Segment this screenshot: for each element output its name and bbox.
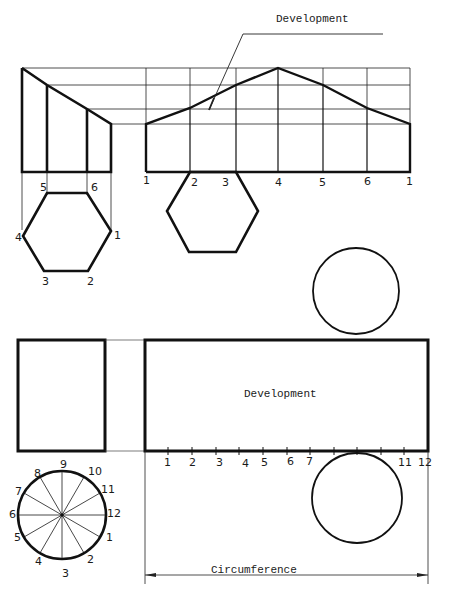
circle-label-8: 8 [34, 467, 41, 480]
cyl-dev-label-7: 7 [306, 455, 313, 468]
cyl-dev-label-6: 6 [287, 455, 294, 468]
circle-label-2: 2 [87, 553, 94, 566]
cylinder-elevation [18, 340, 105, 451]
dev-label-1b: 1 [406, 175, 413, 188]
circle-label-11: 11 [101, 483, 115, 496]
plan-circle-center [60, 513, 64, 517]
bottom-cap-circle [312, 453, 402, 543]
circle-label-3: 3 [62, 567, 69, 580]
top-cap-circle [313, 248, 399, 334]
circumference-label: Circumference [211, 564, 297, 576]
cyl-dev-label-5: 5 [261, 456, 268, 469]
circle-label-1: 1 [106, 531, 113, 544]
hex-label-6: 6 [91, 181, 98, 194]
plan-hexagon [23, 193, 111, 271]
circle-label-7: 7 [15, 485, 22, 498]
hex-label-3: 3 [42, 275, 49, 288]
circle-label-4: 4 [35, 555, 42, 568]
development-leader-top [209, 34, 383, 110]
prism-development-folds [190, 68, 367, 172]
dev-label-5: 5 [319, 176, 326, 189]
circle-label-5: 5 [14, 531, 21, 544]
dev-label-2: 2 [191, 176, 198, 189]
prism-elevation [22, 68, 111, 172]
circle-label-9: 9 [60, 458, 67, 471]
development-label-bottom: Development [244, 388, 317, 400]
dev-label-6: 6 [364, 175, 371, 188]
hex-label-1: 1 [114, 229, 121, 242]
dev-label-1a: 1 [143, 174, 150, 187]
upper-projection-lines [22, 68, 410, 230]
hex-label-5: 5 [40, 181, 47, 194]
circle-label-10: 10 [88, 465, 102, 478]
circle-label-6: 6 [9, 508, 16, 521]
dev-label-4: 4 [275, 176, 282, 189]
cyl-dev-label-3: 3 [216, 456, 223, 469]
cyl-dev-label-11: 11 [398, 456, 412, 469]
technical-drawing: Development 5 6 4 1 3 2 1 2 3 4 5 6 1 De… [0, 0, 454, 599]
hex-label-2: 2 [87, 275, 94, 288]
cyl-dev-label-2: 2 [189, 456, 196, 469]
development-hexagon [167, 172, 258, 252]
cyl-dev-label-12: 12 [418, 456, 432, 469]
dev-label-3: 3 [222, 176, 229, 189]
lower-projection-lines [105, 340, 145, 451]
development-label-top: Development [276, 13, 349, 25]
hex-label-4: 4 [15, 231, 22, 244]
circle-label-12: 12 [107, 507, 121, 520]
cyl-dev-label-1: 1 [164, 456, 171, 469]
cyl-dev-label-4: 4 [242, 457, 249, 470]
